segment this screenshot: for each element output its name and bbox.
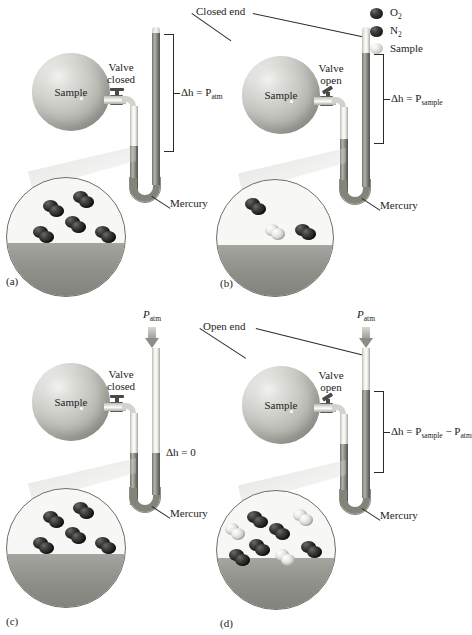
inset-molecule (101, 231, 116, 243)
sample-bulb-d: Sample (242, 366, 320, 444)
tube-right-gas-d (362, 348, 370, 390)
inset-mercury-d (217, 558, 335, 609)
inset-molecule (39, 231, 54, 243)
inset-molecule (299, 514, 313, 526)
p-atm-label-c: Patm (143, 308, 161, 323)
inset-molecule (49, 516, 64, 528)
equation-b: Δh = Psample (391, 92, 443, 107)
p-atm-arrow-d (359, 327, 373, 349)
inset-molecule (253, 516, 268, 528)
mercury-label-d: Mercury (380, 510, 418, 522)
inset-mercury-b (217, 245, 333, 296)
panel-label-d: (d) (220, 617, 233, 629)
mercury-leader-a (151, 196, 170, 209)
inset-molecule (301, 228, 316, 240)
bracket-a (164, 34, 174, 152)
bracket-tick-d (384, 432, 390, 433)
mercury-label-a: Mercury (170, 198, 208, 210)
inset-molecule (235, 554, 250, 566)
bracket-tick-a (174, 93, 180, 94)
sample-bulb-c: Sample (32, 363, 110, 441)
panel-b: Sample Valve open Δh = Psample Mercury (214, 0, 472, 295)
inset-molecule (79, 507, 94, 519)
p-atm-label-d: Patm (357, 308, 375, 323)
valve-label-d-line1: Valve (310, 370, 352, 382)
bulb-label-a: Sample (32, 86, 110, 98)
inset-molecule (39, 542, 54, 554)
bulb-label-d: Sample (242, 399, 320, 411)
valve-label-b-line1: Valve (310, 63, 352, 75)
panel-a: Sample Valve closed Δh = Patm Mercury (0, 0, 236, 295)
bracket-b (374, 54, 384, 144)
inset-circle-a (6, 177, 126, 297)
bracket-tick-b (384, 99, 390, 100)
inset-molecule (251, 203, 266, 215)
bulb-label-b: Sample (242, 89, 320, 101)
tube-left-gas-d (340, 414, 348, 444)
inset-molecule (281, 554, 295, 566)
valve-label-a-line1: Valve (100, 62, 142, 74)
panel-c: Patm Sample Valve closed Δh = 0 Mercury (0, 300, 236, 635)
inset-circle-d (216, 490, 336, 610)
valve-label-c-line1: Valve (100, 369, 142, 381)
tube-left-gas-c (130, 413, 138, 453)
valve-label-c-line2: closed (100, 381, 142, 393)
mercury-label-b: Mercury (380, 200, 418, 212)
mercury-leader-d (361, 508, 380, 521)
bulb-label-c: Sample (32, 396, 110, 408)
tube-right-mercury-a (152, 33, 160, 185)
bracket-d (374, 391, 384, 473)
mercury-leader-b (361, 198, 380, 211)
mercury-label-c: Mercury (170, 508, 208, 520)
inset-molecule (79, 196, 94, 208)
equation-c: Δh = 0 (166, 446, 196, 458)
panel-d: Patm Sample Valve open Δh = Psample − Pa… (214, 300, 472, 635)
tube-left-gas-b (340, 107, 348, 139)
inset-mercury-c (7, 554, 125, 607)
inset-molecule (71, 221, 86, 233)
inset-molecule (49, 205, 64, 217)
tube-right-mercury-c (152, 453, 160, 495)
tube-left-gas-a (130, 106, 138, 146)
inset-mercury-a (7, 243, 125, 296)
inset-molecule (275, 528, 290, 540)
inset-molecule (71, 532, 86, 544)
inset-molecule (307, 546, 322, 558)
panel-label-b: (b) (220, 277, 233, 289)
tube-right-gas-b (362, 33, 370, 53)
panel-label-a: (a) (6, 275, 18, 287)
inset-molecule (101, 542, 116, 554)
manometer-figure: O2 N2 Sample Closed end Sample Valve clo… (0, 0, 472, 635)
inset-molecule (271, 228, 285, 240)
mercury-leader-c (151, 506, 170, 519)
equation-d: Δh = Psample − Patm (391, 425, 472, 440)
panel-label-c: (c) (6, 615, 18, 627)
tube-right-mercury-d (362, 390, 370, 498)
p-atm-arrow-c (145, 327, 159, 349)
sample-bulb-b: Sample (242, 56, 320, 134)
inset-circle-b (216, 179, 334, 297)
inset-molecule (231, 528, 245, 540)
inset-molecule (255, 544, 270, 556)
sample-bulb-a: Sample (32, 53, 110, 131)
inset-circle-c (6, 488, 126, 608)
tube-right-mercury-b (362, 53, 370, 187)
tube-right-gas-c (152, 348, 160, 453)
valve-label-a-line2: closed (100, 74, 142, 86)
